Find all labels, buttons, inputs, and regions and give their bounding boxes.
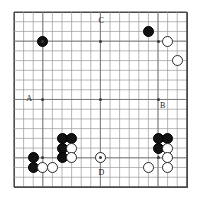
board-grid (0, 0, 202, 210)
white-stone[interactable] (162, 36, 173, 47)
point-label-b: B (160, 102, 165, 110)
star-point (157, 156, 160, 159)
point-label-d: D (98, 169, 104, 177)
go-diagram: ABCD (0, 0, 202, 210)
star-point (99, 40, 102, 43)
star-point (157, 98, 160, 101)
white-stone[interactable] (172, 55, 183, 66)
star-point (99, 98, 102, 101)
point-label-a: A (26, 95, 32, 103)
white-stone[interactable] (47, 162, 58, 173)
point-label-c: C (98, 17, 103, 25)
black-stone[interactable] (143, 26, 154, 37)
star-point (157, 40, 160, 43)
white-stone[interactable] (143, 162, 154, 173)
